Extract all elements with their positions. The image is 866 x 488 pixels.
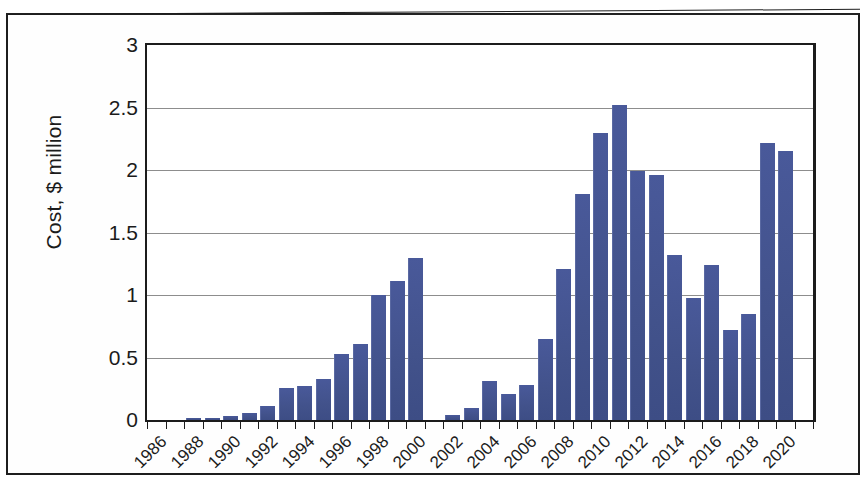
- bar: [667, 255, 682, 420]
- x-axis-tick-mark: [203, 420, 204, 429]
- x-axis-tick-mark: [776, 420, 777, 429]
- bar: [760, 143, 775, 421]
- x-axis-tick-mark: [369, 420, 370, 429]
- x-axis-tick-mark: [184, 420, 185, 429]
- x-axis-tick-mark: [221, 420, 222, 429]
- x-axis-tick-mark: [554, 420, 555, 429]
- x-axis-tick-mark: [351, 420, 352, 429]
- x-axis-tick-mark: [443, 420, 444, 429]
- x-axis-tick-mark: [795, 420, 796, 429]
- x-axis-tick-mark: [147, 420, 148, 429]
- x-axis-tick-mark: [314, 420, 315, 429]
- y-axis-tick-label: 1: [126, 283, 138, 307]
- bar: [464, 408, 479, 421]
- x-axis-tick-mark: [573, 420, 574, 429]
- bar: [593, 133, 608, 421]
- bar: [408, 258, 423, 421]
- x-axis-tick-mark: [536, 420, 537, 429]
- bar: [649, 175, 664, 420]
- x-axis-tick-mark: [425, 420, 426, 429]
- bar: [556, 269, 571, 420]
- y-axis-tick-label: 0: [126, 408, 138, 432]
- x-axis-tick-mark: [739, 420, 740, 429]
- x-axis-tick-mark: [721, 420, 722, 429]
- x-axis-tick-mark: [277, 420, 278, 429]
- x-axis-tick-mark: [628, 420, 629, 429]
- bar: [778, 151, 793, 420]
- bar: [297, 386, 312, 420]
- y-axis-tick-label: 1.5: [109, 221, 138, 245]
- bar: [501, 394, 516, 420]
- gridline: [147, 170, 813, 171]
- bar: [519, 385, 534, 420]
- x-axis-tick-mark: [258, 420, 259, 429]
- x-axis-tick-mark: [295, 420, 296, 429]
- bar: [279, 388, 294, 421]
- bar: [538, 339, 553, 420]
- bar: [316, 379, 331, 420]
- bar: [223, 416, 238, 420]
- x-axis-tick-mark: [610, 420, 611, 429]
- y-axis-tick-label: 2: [126, 158, 138, 182]
- x-axis-tick-mark: [647, 420, 648, 429]
- x-axis-tick-mark: [240, 420, 241, 429]
- y-axis-tick-label: 0.5: [109, 346, 138, 370]
- bar: [242, 413, 257, 421]
- bar: [482, 381, 497, 420]
- bar: [612, 105, 627, 420]
- bar: [741, 314, 756, 420]
- plot-area: 00.511.522.53 19861988199019921994199619…: [145, 43, 816, 422]
- x-axis-tick-mark: [388, 420, 389, 429]
- bar: [704, 265, 719, 420]
- bar: [686, 298, 701, 421]
- bar: [575, 194, 590, 420]
- bar: [371, 295, 386, 420]
- y-axis-title: Cost, $ million: [42, 82, 66, 282]
- y-axis-tick-label: 3: [126, 33, 138, 57]
- gridline: [147, 108, 813, 109]
- bar: [205, 418, 220, 421]
- bar-chart-figure: Cost, $ million 00.511.522.53 1986198819…: [0, 0, 866, 488]
- bar: [353, 344, 368, 420]
- x-axis-tick-mark: [462, 420, 463, 429]
- y-axis-tick-label: 2.5: [109, 96, 138, 120]
- x-axis-tick-mark: [480, 420, 481, 429]
- x-axis-tick-mark: [758, 420, 759, 429]
- x-axis-tick-mark: [591, 420, 592, 429]
- x-axis-tick-mark: [813, 420, 814, 429]
- bar: [390, 281, 405, 420]
- bar: [260, 406, 275, 420]
- x-axis-tick-mark: [166, 420, 167, 429]
- bar: [445, 415, 460, 420]
- bar: [723, 330, 738, 420]
- x-axis-tick-mark: [702, 420, 703, 429]
- x-axis-tick-mark: [406, 420, 407, 429]
- x-axis-tick-mark: [684, 420, 685, 429]
- x-axis-tick-mark: [332, 420, 333, 429]
- gridline: [147, 233, 813, 234]
- bar: [334, 354, 349, 420]
- x-axis-tick-mark: [665, 420, 666, 429]
- bar: [630, 171, 645, 420]
- x-axis-tick-mark: [517, 420, 518, 429]
- bar: [186, 418, 201, 421]
- x-axis-tick-mark: [499, 420, 500, 429]
